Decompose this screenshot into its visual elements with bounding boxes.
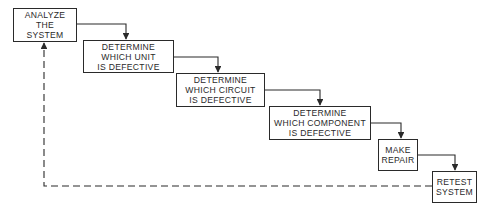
- connector-component-to-repair: [371, 123, 401, 138]
- step-retest-system: RETEST SYSTEM: [432, 171, 477, 203]
- step-label-line: RETEST: [437, 177, 473, 187]
- connector-circuit-to-component: [265, 90, 320, 105]
- step-label-line: WHICH COMPONENT: [274, 118, 366, 128]
- step-determine-unit: DETERMINE WHICH UNIT IS DEFECTIVE: [83, 40, 174, 73]
- step-label-line: MAKE: [385, 145, 411, 155]
- step-label-line: ANALYZE: [25, 10, 66, 20]
- connector-repair-to-retest: [418, 155, 455, 170]
- connector-analyze-to-unit: [77, 24, 126, 39]
- step-label-line: WHICH UNIT: [101, 52, 156, 62]
- step-label-line: IS DEFECTIVE: [189, 95, 251, 105]
- step-label-line: DETERMINE: [194, 75, 247, 85]
- connector-unit-to-circuit: [174, 57, 218, 72]
- step-label-line: DETERMINE: [102, 42, 155, 52]
- step-analyze-system: ANALYZE THE SYSTEM: [13, 8, 77, 42]
- step-label-line: REPAIR: [381, 155, 414, 165]
- troubleshooting-flowchart: ANALYZE THE SYSTEM DETERMINE WHICH UNIT …: [0, 0, 491, 215]
- step-determine-circuit: DETERMINE WHICH CIRCUIT IS DEFECTIVE: [176, 73, 265, 107]
- step-label-line: IS DEFECTIVE: [97, 62, 159, 72]
- step-label-line: SYSTEM: [26, 30, 63, 40]
- step-label-line: THE: [36, 20, 54, 30]
- step-make-repair: MAKE REPAIR: [378, 139, 418, 171]
- step-label-line: SYSTEM: [436, 187, 473, 197]
- step-determine-component: DETERMINE WHICH COMPONENT IS DEFECTIVE: [269, 106, 371, 140]
- step-label-line: WHICH CIRCUIT: [185, 85, 255, 95]
- step-label-line: IS DEFECTIVE: [289, 128, 351, 138]
- step-label-line: DETERMINE: [293, 108, 346, 118]
